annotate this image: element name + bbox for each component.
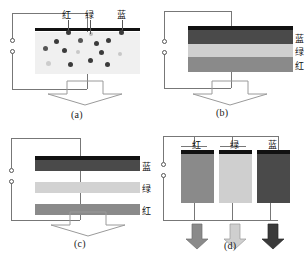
panel-d-terminal-upper[interactable] [161, 162, 166, 167]
panel-c-caption: (c) [74, 238, 86, 249]
emitter-dot [119, 30, 124, 35]
panel-d-wire-left-lower [163, 176, 164, 220]
panel-b-caption: (b) [216, 107, 228, 118]
panel-a-wire-left [12, 13, 13, 39]
panel-b-wire-left [164, 11, 165, 39]
panel-c-layer-green [35, 182, 140, 193]
emitter-dot [105, 62, 110, 67]
emitter-dot [106, 38, 111, 43]
panel-c-layer-blue [35, 160, 140, 171]
emitter-dot [118, 52, 122, 56]
emitter-dot [94, 41, 99, 46]
panel-d-return-blue [270, 203, 271, 220]
panel-a-wire-left-lower [12, 52, 13, 89]
panel-a-label-red: 红 [62, 8, 71, 21]
panel-d-return-green [232, 203, 233, 220]
panel-c-label-red: 红 [142, 204, 151, 217]
panel-d: 红 绿 蓝 (d) [152, 128, 305, 256]
panel-c-label-blue: 蓝 [142, 160, 151, 173]
panel-c-terminal-lower[interactable] [9, 179, 14, 184]
panel-b-label-blue: 蓝 [295, 32, 304, 45]
panel-c-wire-left-lower [11, 182, 12, 220]
panel-a-label-green: 绿 [85, 8, 94, 21]
panel-c-wire-left [11, 138, 12, 168]
panel-b-layer-blue [188, 30, 293, 44]
panel-a-wire-top [12, 13, 87, 14]
panel-b-wire-left-lower [164, 53, 165, 88]
panel-d-terminal-lower[interactable] [161, 173, 166, 178]
panel-d-label-blue: 蓝 [268, 138, 277, 151]
panel-d-bar-blue [257, 154, 290, 203]
emitter-dot [99, 50, 104, 55]
panel-a-leader-blue [122, 20, 123, 30]
panel-c-terminal-upper[interactable] [9, 168, 14, 173]
panel-b-layer-green [188, 44, 293, 57]
panel-b-wire-top [164, 11, 231, 12]
panel-a-substrate [35, 32, 140, 74]
emitter-dot [54, 39, 59, 44]
panel-a-leader-green [90, 20, 91, 34]
emitter-dot [68, 62, 73, 67]
emitter-dot [46, 61, 51, 66]
panel-d-return-red [194, 203, 195, 220]
panel-d-bar-green [219, 154, 252, 203]
panel-d-wire-top [163, 136, 278, 137]
panel-a-terminal-upper[interactable] [10, 38, 15, 43]
panel-a: 红 绿 蓝 (a) [0, 0, 152, 128]
panel-b: 蓝 绿 红 (b) [152, 0, 305, 128]
emitter-dot [76, 50, 80, 54]
panel-b-layer-red [188, 57, 293, 72]
panel-d-wire-left [163, 136, 164, 162]
emitter-dot [88, 58, 93, 63]
emitter-dot [66, 30, 71, 35]
panel-d-bar-red [181, 154, 214, 203]
panel-d-emission-arrow-red [185, 224, 209, 250]
panel-c-emission-arrow [48, 211, 128, 237]
panel-b-label-green: 绿 [295, 45, 304, 58]
panel-c: 蓝 绿 红 (c) [0, 128, 152, 256]
panel-b-emission-arrow [190, 80, 270, 106]
panel-d-caption: (d) [224, 240, 236, 251]
panel-a-emission-arrow [45, 80, 125, 106]
emitter-dot [78, 38, 83, 43]
panel-a-electrode [35, 28, 140, 31]
panel-b-label-red: 红 [295, 59, 304, 72]
panel-d-emission-arrow-blue [261, 224, 285, 250]
panel-c-label-green: 绿 [142, 182, 151, 195]
panel-d-label-red: 红 [192, 138, 201, 151]
panel-d-wire-bottom [163, 220, 278, 221]
panel-a-terminal-lower[interactable] [10, 49, 15, 54]
panel-c-wire-top [11, 138, 80, 139]
panel-d-label-green: 绿 [230, 138, 239, 151]
panel-b-terminal-upper[interactable] [162, 39, 167, 44]
panel-a-label-blue: 蓝 [117, 8, 126, 21]
emitter-dot [43, 46, 48, 51]
panel-a-leader-red [68, 20, 69, 30]
panel-b-terminal-lower[interactable] [162, 50, 167, 55]
panel-a-caption: (a) [71, 109, 83, 120]
emitter-dot [62, 48, 67, 53]
